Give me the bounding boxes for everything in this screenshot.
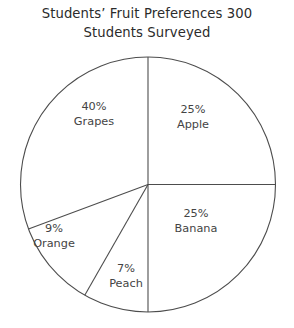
pie-chart-figure: Students’ Fruit Preferences 300 Students… bbox=[0, 0, 294, 328]
pie-chart-graphic bbox=[0, 0, 294, 328]
